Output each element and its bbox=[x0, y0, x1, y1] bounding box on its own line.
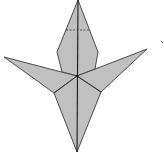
origami-figure bbox=[0, 0, 164, 155]
stray-mark bbox=[161, 41, 163, 43]
center-point bbox=[76, 75, 78, 77]
origami-diagram: origami crane / bird base step bbox=[0, 0, 164, 155]
